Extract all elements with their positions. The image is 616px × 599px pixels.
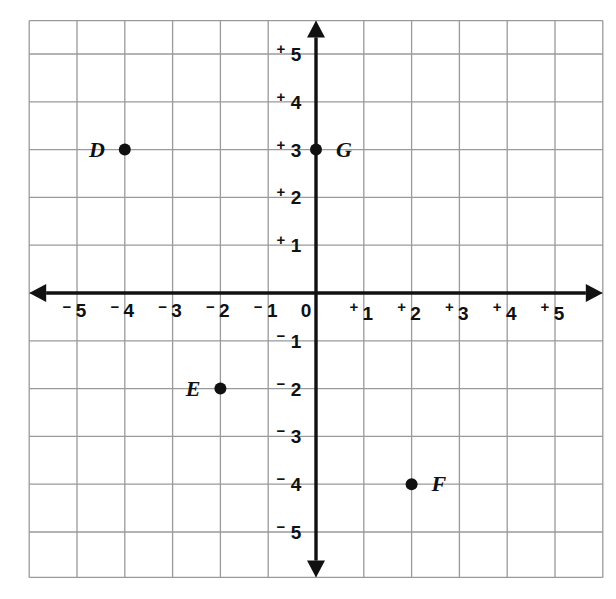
tick-label-y: +1 [277, 231, 302, 256]
tick-label-x: −4 [110, 298, 134, 321]
tick-label-y: −4 [277, 470, 302, 495]
tick-sign-y: − [277, 518, 286, 535]
tick-digit-y: 3 [291, 140, 302, 161]
tick-digit-x: 5 [76, 300, 87, 321]
tick-digit-x: 3 [458, 303, 469, 324]
tick-label-y: +2 [277, 183, 302, 208]
tick-label-origin: 0 [301, 300, 312, 321]
point-marker [310, 144, 322, 156]
tick-sign-y: + [277, 40, 286, 57]
tick-label-y: +5 [277, 40, 302, 65]
tick-digit-x: 1 [267, 300, 278, 321]
tick-digit-x: 5 [554, 303, 565, 324]
tick-label-x: −3 [158, 298, 182, 321]
tick-digit-y: 5 [291, 44, 302, 65]
tick-digit-y: 2 [291, 187, 302, 208]
tick-sign-x: − [110, 298, 119, 315]
tick-label-x: +5 [541, 298, 565, 324]
tick-digit-x: 4 [124, 300, 135, 321]
coordinate-plane-svg: 0−5−4−3−2−1+1+2+3+4+5+5+4+3+2+1−1−2−3−4−… [0, 0, 616, 599]
tick-sign-y: − [277, 327, 286, 344]
tick-digit-y: 4 [291, 474, 302, 495]
tick-label-y: −1 [277, 327, 302, 352]
tick-label-x: −5 [63, 298, 87, 321]
tick-label-y: −5 [277, 518, 302, 543]
tick-sign-x: + [445, 298, 454, 315]
tick-digit-y: 1 [291, 331, 302, 352]
tick-digit-y: 3 [291, 426, 302, 447]
tick-label-x: +3 [445, 298, 469, 324]
tick-sign-x: + [397, 298, 406, 315]
point-label-g: G [336, 137, 352, 162]
tick-sign-x: − [206, 298, 215, 315]
tick-label-x: −2 [206, 298, 230, 321]
coordinate-plane-figure: 0−5−4−3−2−1+1+2+3+4+5+5+4+3+2+1−1−2−3−4−… [0, 0, 616, 599]
tick-digit-x: 3 [171, 300, 182, 321]
tick-label-x: +1 [349, 298, 373, 324]
tick-digit-y: 1 [291, 235, 302, 256]
tick-sign-y: − [277, 422, 286, 439]
tick-digit-y: 5 [291, 522, 302, 543]
tick-sign-x: − [158, 298, 167, 315]
tick-sign-y: + [277, 88, 286, 105]
tick-digit-x: 2 [219, 300, 230, 321]
point-marker [406, 478, 418, 490]
tick-label-x: −1 [254, 298, 278, 321]
tick-sign-y: + [277, 231, 286, 248]
tick-label-x: +2 [397, 298, 421, 324]
y-axis-arrow-down [307, 560, 325, 577]
tick-label-y: +3 [277, 136, 302, 161]
tick-label-y: +4 [277, 88, 302, 113]
point-marker [214, 383, 226, 395]
tick-sign-x: + [541, 298, 550, 315]
tick-sign-y: − [277, 470, 286, 487]
tick-sign-y: − [277, 375, 286, 392]
x-axis-arrow-left [29, 284, 46, 302]
tick-digit-y: 2 [291, 379, 302, 400]
point-label-d: D [88, 137, 105, 162]
point-marker [119, 144, 131, 156]
tick-sign-x: − [63, 298, 72, 315]
x-axis-arrow-right [586, 284, 603, 302]
point-label-e: E [185, 376, 201, 401]
tick-sign-x: + [349, 298, 358, 315]
tick-digit-x: 4 [506, 303, 517, 324]
tick-label-y: −3 [277, 422, 302, 447]
tick-label-y: −2 [277, 375, 302, 400]
tick-digit-x: 1 [363, 303, 374, 324]
tick-sign-y: + [277, 136, 286, 153]
tick-sign-y: + [277, 183, 286, 200]
tick-digit-x: 2 [410, 303, 421, 324]
point-label-f: F [431, 471, 447, 496]
tick-digit-y: 4 [291, 92, 302, 113]
tick-sign-x: + [493, 298, 502, 315]
y-axis-arrow-up [307, 21, 325, 38]
tick-sign-x: − [254, 298, 263, 315]
tick-label-x: +4 [493, 298, 517, 324]
